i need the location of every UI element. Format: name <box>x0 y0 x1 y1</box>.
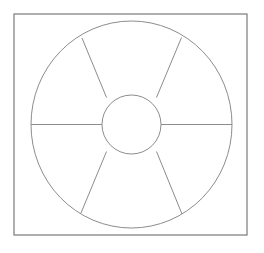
canvas-background <box>0 0 264 253</box>
diagram-root <box>0 0 264 253</box>
diagram-canvas <box>0 0 264 253</box>
